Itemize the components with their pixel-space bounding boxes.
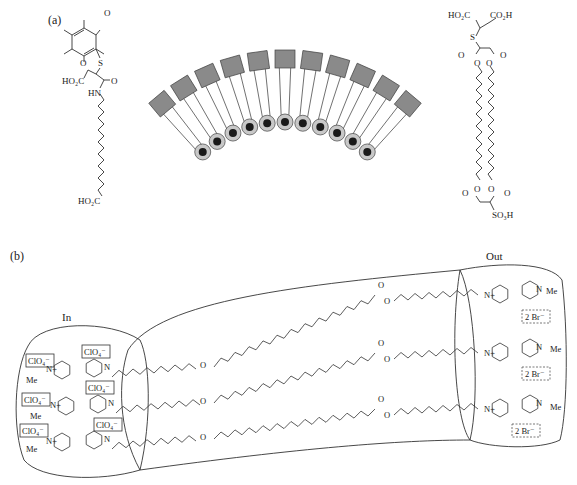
- counterion: ClO₄⁻: [88, 383, 110, 393]
- svg-text:N+: N+: [484, 348, 495, 358]
- atom-label: S: [98, 58, 103, 68]
- methyl-label: Me: [26, 375, 38, 385]
- headgroup-square: [350, 63, 376, 88]
- svg-text:N: N: [536, 284, 542, 294]
- atom-label: O: [474, 184, 481, 194]
- svg-text:O: O: [200, 396, 206, 406]
- atom-label: O: [486, 58, 493, 68]
- counterion: ClO₄⁻: [84, 347, 106, 357]
- svg-text:N: N: [104, 434, 110, 444]
- atom-label: O: [500, 50, 507, 60]
- counterion: ClO₄⁻: [96, 420, 118, 430]
- svg-text:N: N: [536, 342, 542, 352]
- headgroup-square: [171, 75, 197, 101]
- svg-text:O: O: [378, 280, 384, 290]
- atom-label: O: [458, 50, 465, 60]
- svg-text:N+: N+: [484, 290, 495, 300]
- atom-label: HO₂C: [62, 76, 84, 86]
- inner-counterion-boxes: ClO₄⁻ ClO₄⁻ ClO₄⁻ ClO₄⁻ ClO₄⁻ ClO₄⁻: [20, 345, 122, 437]
- panel-b-label: (b): [10, 249, 24, 263]
- atom-label: O: [488, 184, 495, 194]
- methyl-label: Me: [550, 344, 562, 354]
- counterion: 2 Br⁻: [525, 312, 544, 322]
- atom-label: O: [474, 58, 481, 68]
- atom-label: O: [462, 188, 469, 198]
- headgroup-square: [195, 63, 221, 88]
- atom-label: O: [111, 76, 118, 86]
- counterion: 2 Br⁻: [515, 426, 534, 436]
- bilayer-arc: [149, 50, 421, 160]
- headgroup-square: [373, 75, 399, 101]
- svg-text:O: O: [200, 432, 206, 442]
- svg-text:O: O: [378, 394, 384, 404]
- svg-text:N+: N+: [484, 404, 495, 414]
- headgroup-square: [275, 50, 295, 68]
- left-molecule: [64, 20, 110, 196]
- svg-text:O: O: [384, 410, 390, 420]
- atom-label: O: [104, 8, 111, 18]
- counterion: 2 Br⁻: [525, 369, 544, 379]
- atom-label: HN: [88, 88, 101, 98]
- atom-label: HO₂C: [448, 10, 470, 20]
- svg-text:O: O: [384, 296, 390, 306]
- outer-counterion-boxes: 2 Br⁻ 2 Br⁻ 2 Br⁻: [512, 310, 550, 437]
- atom-label: SO₃H: [492, 210, 514, 220]
- counterion: ClO₄⁻: [28, 356, 50, 366]
- svg-text:N: N: [536, 398, 542, 408]
- headgroup-square: [247, 51, 269, 72]
- lipid-tails: N+NOOON+NN+NOOON+NN+NOOON+N: [46, 280, 542, 451]
- svg-text:O: O: [200, 360, 206, 370]
- atom-label: O: [80, 58, 87, 68]
- methyl-label: Me: [30, 411, 42, 421]
- svg-text:N: N: [104, 362, 110, 372]
- out-label: Out: [486, 250, 503, 262]
- counterion: ClO₄⁻: [22, 426, 44, 436]
- figure: (a) O O S HO₂C O HN HO₂C: [0, 0, 577, 485]
- atom-label: HO₂C: [78, 196, 100, 206]
- atom-label: CO₂H: [490, 10, 513, 20]
- methyl-label: Me: [546, 286, 558, 296]
- svg-text:N+: N+: [46, 436, 57, 446]
- counterion: ClO₄⁻: [24, 395, 46, 405]
- headgroup-square: [300, 51, 322, 72]
- in-label: In: [62, 311, 72, 323]
- headgroup-square: [394, 90, 421, 117]
- svg-text:N: N: [108, 398, 114, 408]
- atom-label: S: [470, 32, 475, 42]
- panel-a-label: (a): [48, 13, 61, 27]
- right-molecule: [476, 18, 496, 210]
- svg-text:O: O: [384, 354, 390, 364]
- atom-label: O: [504, 188, 511, 198]
- headgroup-square: [149, 90, 176, 117]
- methyl-label: Me: [26, 444, 38, 454]
- methyl-label: Me: [550, 402, 562, 412]
- svg-text:N+: N+: [50, 400, 61, 410]
- svg-text:O: O: [378, 338, 384, 348]
